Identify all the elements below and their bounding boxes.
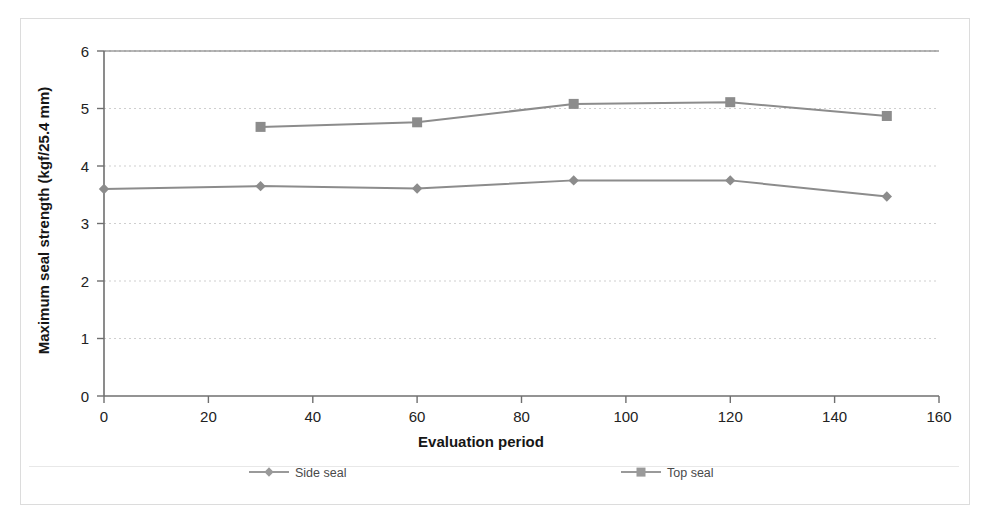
- x-tick-label: 140: [822, 408, 847, 425]
- x-tick-label: 0: [100, 408, 108, 425]
- legend-item-side-seal[interactable]: Side seal: [249, 466, 346, 480]
- legend-label-top-seal: Top seal: [667, 466, 714, 480]
- series-side-seal: [99, 175, 892, 202]
- legend-label-side-seal: Side seal: [295, 466, 346, 480]
- chart-legend: Side seal Top seal: [249, 466, 714, 480]
- x-tick-label: 60: [409, 408, 426, 425]
- diamond-marker-icon: [882, 191, 892, 201]
- square-marker-icon: [882, 111, 892, 121]
- y-tick-label: 1: [81, 330, 89, 347]
- y-tick-label: 3: [81, 215, 89, 232]
- x-tick-label: 160: [926, 408, 951, 425]
- x-tick-label: 100: [613, 408, 638, 425]
- plot-area-wrapper: Maximum seal strength (kgf/25.4 mm) Eval…: [21, 19, 969, 504]
- x-tick-labels: 0 20 40 60 80 100 120 140 160: [100, 408, 952, 425]
- y-tick-label: 4: [81, 158, 89, 175]
- x-axis-ticks: [104, 396, 939, 403]
- diamond-marker-icon: [99, 184, 109, 194]
- y-tick-label: 0: [81, 388, 89, 405]
- y-tick-labels: 6 5 4 3 2 1 0: [81, 43, 89, 405]
- gridlines: [104, 51, 939, 339]
- series-line: [104, 180, 887, 196]
- diamond-marker-icon: [412, 183, 422, 193]
- square-marker-icon: [569, 99, 579, 109]
- y-axis-ticks: [97, 51, 104, 396]
- y-tick-label: 6: [81, 43, 89, 60]
- legend-item-top-seal[interactable]: Top seal: [621, 466, 714, 480]
- square-marker-icon: [256, 122, 266, 132]
- legend-divider: [29, 466, 959, 467]
- diamond-marker-icon: [255, 181, 265, 191]
- square-marker-icon: [725, 97, 735, 107]
- diamond-marker-icon: [725, 175, 735, 185]
- x-tick-label: 120: [718, 408, 743, 425]
- chart-figure: Maximum seal strength (kgf/25.4 mm) Eval…: [20, 18, 970, 505]
- series-top-seal: [256, 97, 892, 132]
- y-tick-label: 5: [81, 100, 89, 117]
- x-tick-label: 40: [304, 408, 321, 425]
- square-marker-icon: [412, 117, 422, 127]
- x-tick-label: 80: [513, 408, 530, 425]
- line-chart-svg: 6 5 4 3 2 1 0 0: [21, 19, 971, 506]
- square-marker-icon: [637, 468, 646, 477]
- x-tick-label: 20: [200, 408, 217, 425]
- data-series-layer: [99, 97, 892, 202]
- diamond-marker-icon: [264, 467, 273, 477]
- diamond-marker-icon: [568, 175, 578, 185]
- y-tick-label: 2: [81, 273, 89, 290]
